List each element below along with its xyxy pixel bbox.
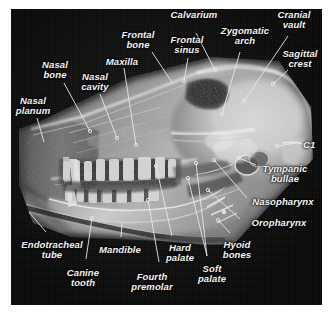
label-sagittal-crest: Sagittal crest — [240, 49, 322, 70]
label-nasal-planum: Nasal planum — [11, 96, 93, 117]
label-c1: C1 — [303, 140, 315, 150]
label-hyoid-bones: Hyoid bones — [177, 240, 297, 261]
label-nasal-cavity: Nasal cavity — [35, 72, 155, 93]
label-frontal-sinus: Frontal sinus — [127, 35, 247, 56]
label-tympanic-bullae: Tympanic bullae — [225, 164, 322, 185]
radiograph-panel: CalvariumCranial vaultZygomatic archFron… — [11, 9, 322, 305]
radiograph-figure: CalvariumCranial vaultZygomatic archFron… — [0, 0, 334, 322]
label-oropharynx: Oropharynx — [219, 218, 322, 228]
label-nasopharynx: Nasopharynx — [223, 197, 322, 207]
label-soft-palate: Soft palate — [152, 264, 272, 285]
